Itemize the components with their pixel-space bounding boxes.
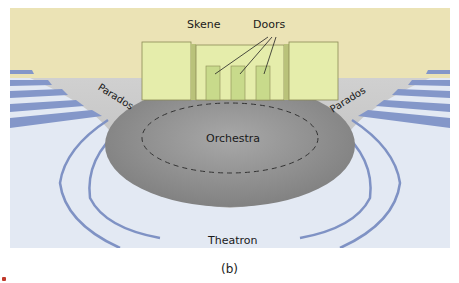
theatron-label: Theatron	[208, 234, 258, 247]
skene-label: Skene	[187, 18, 220, 31]
door-1	[206, 66, 220, 100]
door-3	[256, 66, 270, 100]
orchestra-label: Orchestra	[206, 132, 260, 145]
theater-illustration	[10, 8, 450, 248]
greek-theater-diagram: Skene Doors Parados Parados Orchestra Th…	[10, 8, 450, 248]
skene-building	[142, 42, 338, 100]
corner-mark	[2, 277, 6, 281]
orchestra-floor	[105, 83, 355, 207]
doors-label: Doors	[253, 18, 285, 31]
figure-caption: (b)	[0, 262, 459, 276]
